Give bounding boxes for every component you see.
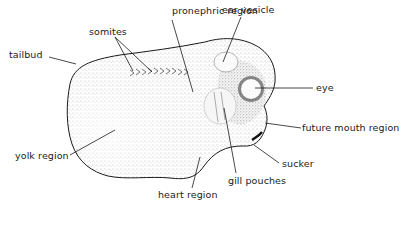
label-heart-region: heart region (158, 190, 218, 200)
label-future-mouth-region: future mouth region (302, 123, 399, 133)
gill-pouches-shape (204, 88, 236, 124)
label-gill-pouches: gill pouches (228, 176, 286, 186)
embryo-diagram: pronephric region ear vesicle somites ta… (0, 0, 407, 226)
label-eye: eye (316, 83, 334, 93)
label-sucker: sucker (282, 159, 314, 169)
label-tailbud: tailbud (9, 50, 43, 60)
label-yolk-region: yolk region (15, 151, 69, 161)
label-ear-vesicle: ear vesicle (222, 5, 274, 15)
label-somites: somites (89, 27, 127, 37)
